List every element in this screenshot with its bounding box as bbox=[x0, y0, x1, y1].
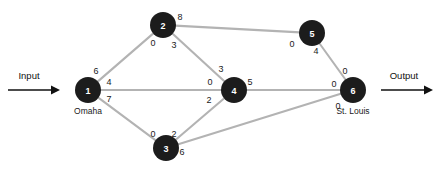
node-3-label: 3 bbox=[163, 144, 168, 154]
edge-1-4-to-value: 0 bbox=[207, 77, 212, 87]
edge-2-4 bbox=[172, 33, 225, 82]
nodes-group: 1Omaha23456St. Louis bbox=[74, 12, 369, 161]
node-2-label: 2 bbox=[160, 21, 165, 31]
node-4-label: 4 bbox=[231, 86, 236, 96]
edge-2-4-from-value: 3 bbox=[171, 40, 176, 50]
edge-5-6-to-value: 0 bbox=[342, 66, 347, 76]
edge-3-4 bbox=[175, 98, 225, 140]
edge-2-5-from-value: 8 bbox=[177, 12, 182, 22]
edge-1-2-to-value: 0 bbox=[150, 38, 155, 48]
node-6-city-label: St. Louis bbox=[336, 106, 369, 116]
edge-1-4-from-value: 4 bbox=[106, 77, 111, 87]
edge-3-6-to-value: 0 bbox=[335, 101, 340, 111]
edge-1-2-from-value: 6 bbox=[93, 66, 98, 76]
edge-2-5-to-value: 0 bbox=[289, 39, 294, 49]
node-1-label: 1 bbox=[85, 86, 90, 96]
output-arrow-head bbox=[424, 85, 433, 94]
network-flow-diagram: 1Omaha23456St. Louis 604070338022605040 … bbox=[0, 0, 442, 180]
edge-4-6-to-value: 0 bbox=[331, 79, 336, 89]
input-label: Input bbox=[18, 70, 39, 81]
node-6-label: 6 bbox=[350, 86, 355, 96]
node-1-city-label: Omaha bbox=[74, 106, 102, 116]
edge-4-6-from-value: 5 bbox=[247, 77, 252, 87]
input-arrow-head bbox=[51, 85, 60, 94]
edge-3-6 bbox=[177, 94, 341, 145]
edge-3-4-to-value: 2 bbox=[206, 95, 211, 105]
output-label: Output bbox=[390, 70, 419, 81]
edge-3-4-from-value: 2 bbox=[171, 129, 176, 139]
edge-2-5 bbox=[175, 26, 300, 33]
edge-2-4-to-value: 3 bbox=[218, 64, 223, 74]
edge-1-3-from-value: 7 bbox=[106, 94, 111, 104]
network-graph-canvas: 1Omaha23456St. Louis 604070338022605040 … bbox=[0, 0, 442, 180]
edge-3-6-from-value: 6 bbox=[179, 147, 184, 157]
edge-5-6-from-value: 4 bbox=[313, 46, 318, 56]
edge-1-2 bbox=[97, 33, 154, 82]
node-5-label: 5 bbox=[309, 29, 314, 39]
edge-1-3-to-value: 0 bbox=[150, 129, 155, 139]
